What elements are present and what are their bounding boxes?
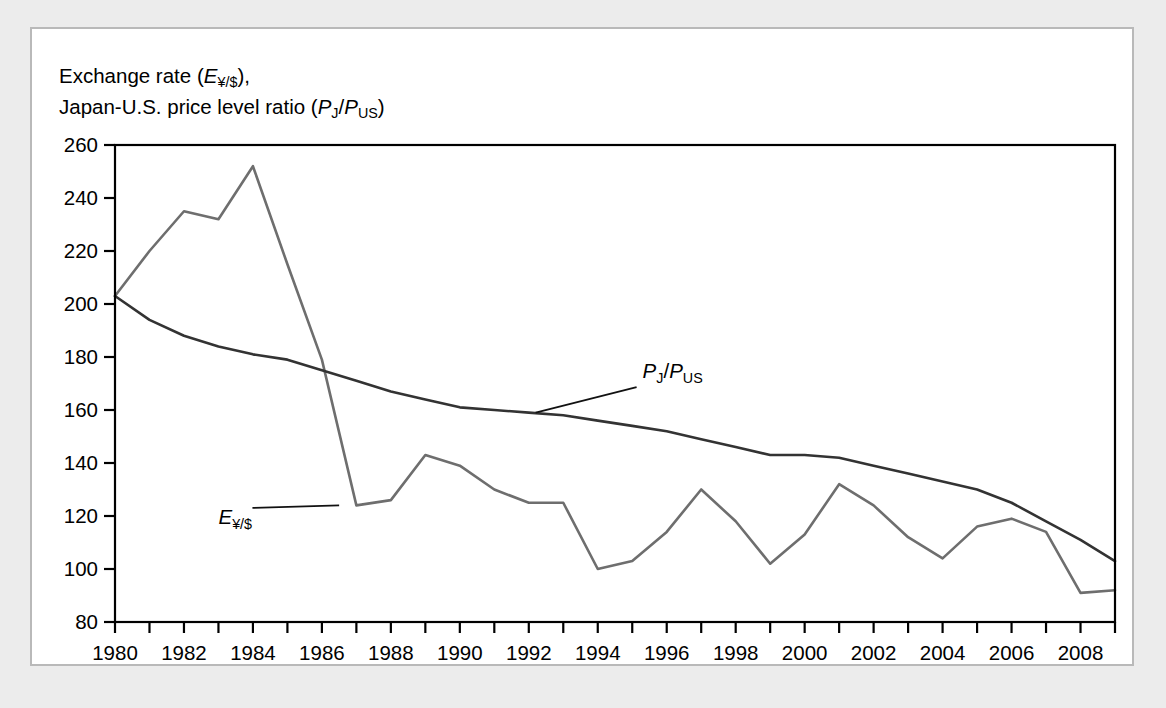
- x-tick-label: 1998: [713, 641, 759, 664]
- x-tick-label: 1988: [368, 641, 414, 664]
- x-tick-label: 2004: [920, 641, 966, 664]
- y-tick-label: 260: [64, 133, 98, 156]
- x-tick-label: 2002: [851, 641, 897, 664]
- x-tick-label: 1982: [161, 641, 207, 664]
- series-line-E: [115, 166, 1115, 593]
- x-tick-label: 2000: [782, 641, 828, 664]
- y-tick-label: 140: [64, 451, 98, 474]
- line-chart: 80100120140160180200220240260 1980198219…: [32, 29, 1136, 668]
- x-tick-label: 1986: [299, 641, 345, 664]
- figure-page: Exchange rate (E¥/$), Japan-U.S. price l…: [0, 0, 1166, 708]
- y-axis-ticks: 80100120140160180200220240260: [64, 133, 115, 633]
- plot-area: 80100120140160180200220240260 1980198219…: [32, 29, 1136, 668]
- annotation-leader-line: [252, 505, 339, 508]
- y-tick-label: 180: [64, 345, 98, 368]
- x-tick-label: 1994: [575, 641, 621, 664]
- axis-frame: [115, 145, 1115, 622]
- series-line-PJPUS: [115, 296, 1115, 561]
- figure-frame: Exchange rate (E¥/$), Japan-U.S. price l…: [30, 27, 1134, 666]
- series-label: PJ/PUS: [643, 359, 703, 386]
- y-tick-label: 80: [75, 610, 98, 633]
- series-label: E¥/$: [218, 505, 252, 532]
- y-tick-label: 200: [64, 292, 98, 315]
- series-lines: [115, 166, 1115, 593]
- x-tick-label: 1992: [506, 641, 552, 664]
- y-tick-label: 160: [64, 398, 98, 421]
- x-tick-label: 1996: [644, 641, 690, 664]
- x-tick-label: 1980: [92, 641, 138, 664]
- x-tick-label: 2006: [989, 641, 1035, 664]
- series-annotations: PJ/PUSE¥/$: [218, 359, 702, 532]
- y-tick-label: 220: [64, 239, 98, 262]
- x-tick-label: 1990: [437, 641, 483, 664]
- x-tick-label: 1984: [230, 641, 276, 664]
- y-tick-label: 100: [64, 557, 98, 580]
- x-axis-ticks: 1980198219841986198819901992199419961998…: [92, 622, 1115, 664]
- y-tick-label: 240: [64, 186, 98, 209]
- y-tick-label: 120: [64, 504, 98, 527]
- annotation-leader-line: [536, 387, 637, 412]
- x-tick-label: 2008: [1058, 641, 1104, 664]
